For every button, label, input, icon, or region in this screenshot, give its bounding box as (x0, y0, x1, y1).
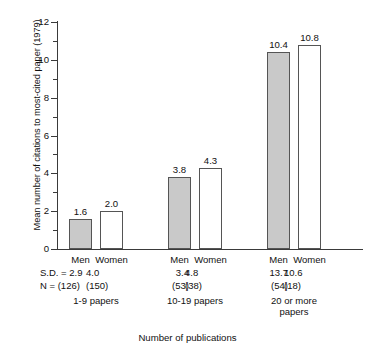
bar-chart: Mean number of citations to most-cited p… (0, 0, 375, 352)
n-value-women-group-0: (150) (86, 281, 121, 291)
y-tick-major-12 (51, 22, 57, 23)
n-value-women-group-1: (38) (185, 281, 220, 291)
x-axis-line (57, 249, 363, 250)
y-tick-minor-11 (53, 41, 57, 42)
bar-men-group-1 (168, 177, 191, 249)
bar-value-label: 10.4 (261, 40, 296, 50)
y-tick-major-10 (51, 60, 57, 61)
y-tick-minor-9 (53, 79, 57, 80)
x-label-women-group-1: Women (189, 255, 232, 265)
sd-value-women-group-0: 4.0 (86, 268, 121, 278)
bar-value-label: 3.8 (162, 165, 197, 175)
bar-value-label: 1.6 (63, 207, 98, 217)
sd-value-women-group-2: 10.6 (284, 268, 319, 278)
y-tick-label-6: 6 (3, 131, 49, 141)
sd-value-women-group-1: 4.8 (185, 268, 220, 278)
n-value-women-group-2: (18) (284, 281, 319, 291)
y-tick-minor-1 (53, 230, 57, 231)
x-axis-annotations: MenWomenMenWomenMenWomenS.D. = 2.94.03.4… (0, 251, 375, 321)
sd-value-men-group-2: 13.7 (253, 268, 288, 278)
y-tick-label-12: 12 (3, 17, 49, 27)
y-tick-major-0 (51, 249, 57, 250)
y-tick-label-8: 8 (3, 93, 49, 103)
x-label-women-group-2: Women (288, 255, 331, 265)
sd-value-men-group-0: S.D. = 2.9 (40, 268, 83, 278)
bar-women-group-0 (100, 211, 123, 249)
y-axis-line (57, 21, 58, 250)
n-value-men-group-1: (53) (154, 281, 189, 291)
bar-men-group-0 (69, 219, 92, 249)
n-value-men-group-0: N = (126) (40, 281, 80, 291)
y-tick-label-10: 10 (3, 55, 49, 65)
n-value-men-group-2: (54) (253, 281, 288, 291)
y-tick-major-6 (51, 136, 57, 137)
x-label-women-group-0: Women (90, 255, 133, 265)
y-tick-label-2: 2 (3, 206, 49, 216)
group-label-1: 10-19 papers (150, 295, 240, 306)
bar-value-label: 4.3 (193, 156, 228, 166)
y-tick-label-4: 4 (3, 168, 49, 178)
y-tick-minor-3 (53, 192, 57, 193)
bar-women-group-1 (199, 168, 222, 249)
y-tick-minor-7 (53, 117, 57, 118)
y-tick-minor-5 (53, 154, 57, 155)
x-axis-title: Number of publications (0, 332, 375, 343)
bar-women-group-2 (298, 45, 321, 249)
bar-value-label: 2.0 (94, 199, 129, 209)
bar-men-group-2 (267, 52, 290, 249)
group-label-0: 1-9 papers (51, 295, 141, 306)
group-label-2: 20 or more papers (249, 295, 339, 317)
bar-value-label: 10.8 (292, 33, 327, 43)
y-tick-major-8 (51, 98, 57, 99)
y-tick-major-4 (51, 173, 57, 174)
y-tick-major-2 (51, 211, 57, 212)
sd-value-men-group-1: 3.4 (154, 268, 189, 278)
